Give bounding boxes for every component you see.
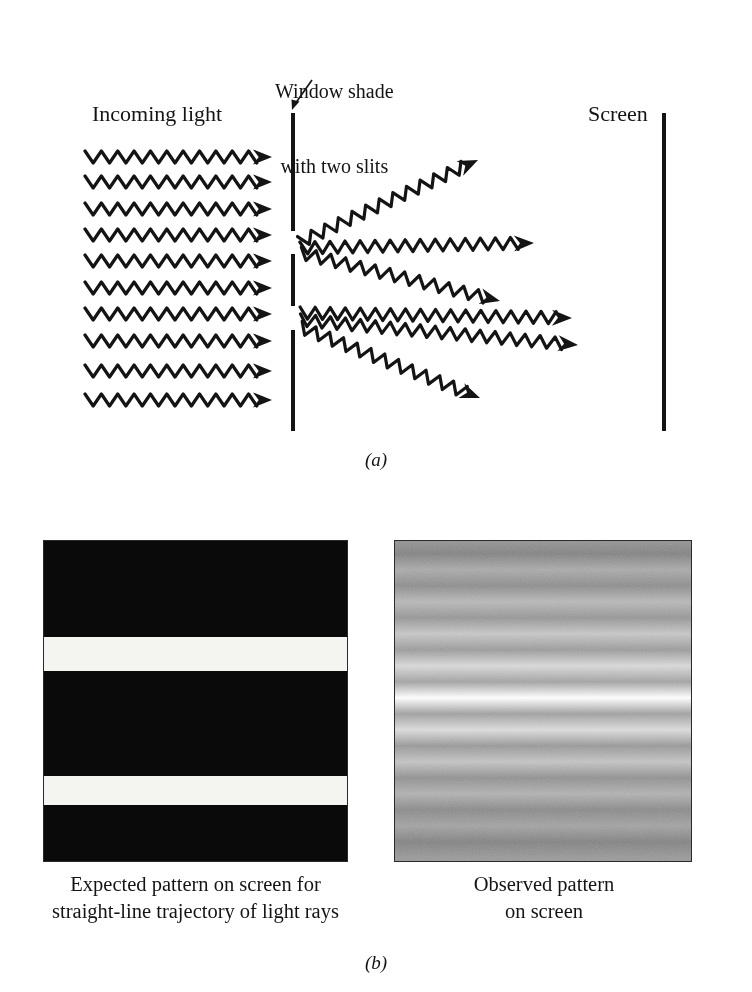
part-a-letter: (a) (340, 449, 412, 471)
lower-slit-wave-down (302, 321, 467, 395)
observed-caption-line2: on screen (424, 898, 664, 925)
expected-pattern-image (43, 540, 348, 862)
diffracted-light-waves (0, 0, 752, 500)
observed-caption-line1: Observed pattern (424, 871, 664, 898)
panel-b-patterns: Expected pattern on screen for straight-… (0, 500, 752, 992)
part-b-letter: (b) (340, 952, 412, 974)
screen-line (662, 113, 666, 431)
upper-bright-band (44, 637, 347, 671)
upper-slit-wave-straight (300, 238, 518, 254)
observed-pattern-image (394, 540, 692, 862)
lower-bright-band (44, 776, 347, 805)
figure-root: Incoming light Screen Window shade with … (0, 0, 752, 992)
expected-pattern-caption: Expected pattern on screen for straight-… (23, 871, 368, 925)
expected-caption-line1: Expected pattern on screen for (23, 871, 368, 898)
panel-a-diagram: Incoming light Screen Window shade with … (0, 0, 752, 500)
film-grain-texture (395, 541, 691, 861)
upper-slit-wave-up (297, 161, 460, 244)
lower-slit-wave-up (300, 307, 556, 324)
observed-pattern-caption: Observed pattern on screen (424, 871, 664, 925)
expected-caption-line2: straight-line trajectory of light rays (23, 898, 368, 925)
upper-slit-wave-down (301, 247, 483, 303)
